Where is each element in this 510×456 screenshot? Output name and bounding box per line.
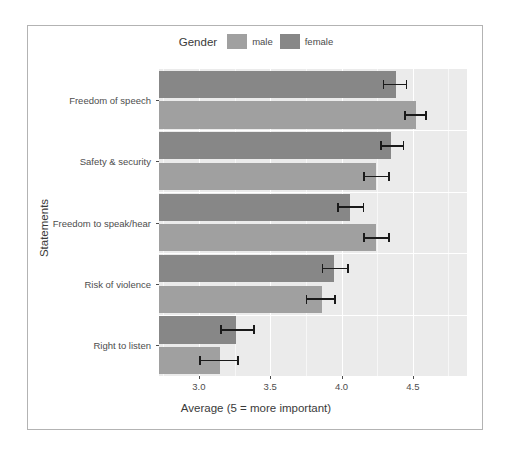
chart-figure: Gender male female Freedom of speechSafe… [27, 25, 483, 430]
error-bar-cap [388, 172, 390, 181]
x-tick-mark [199, 376, 200, 379]
legend-label-female: female [305, 36, 334, 47]
error-bar-cap [363, 203, 365, 212]
grid-line-horizontal [159, 130, 467, 131]
x-tick-label: 4.5 [406, 381, 419, 392]
legend-key-male[interactable]: male [227, 34, 273, 49]
bar-female[interactable] [159, 255, 334, 282]
grid-line-minor [448, 69, 449, 376]
y-axis-title: Statements [38, 128, 50, 328]
y-tick-mark [156, 284, 159, 285]
error-bar-line [337, 206, 364, 208]
legend-swatch-female [280, 34, 300, 49]
error-bar-line [380, 145, 404, 147]
legend-label-male: male [252, 36, 273, 47]
x-tick-mark [342, 376, 343, 379]
error-bar-cap [383, 80, 385, 89]
error-bar-line [306, 298, 336, 300]
error-bar-cap [199, 356, 201, 365]
y-tick-label: Freedom to speak/hear [53, 217, 151, 228]
grid-line-horizontal [159, 253, 467, 254]
error-bar-cap [253, 325, 255, 334]
error-bar-cap [388, 233, 390, 242]
legend-title: Gender [179, 36, 217, 48]
error-bar-cap [363, 172, 365, 181]
error-bar-cap [403, 141, 405, 150]
error-bar-cap [363, 233, 365, 242]
bar-female[interactable] [159, 194, 350, 221]
error-bar-cap [404, 111, 406, 120]
error-bar-line [363, 237, 390, 239]
x-axis-title: Average (5 = more important) [28, 402, 484, 414]
bar-female[interactable] [159, 71, 396, 98]
x-tick-label: 3.0 [192, 381, 205, 392]
error-bar-cap [220, 325, 222, 334]
bar-male[interactable] [159, 286, 322, 313]
x-tick-label: 3.5 [264, 381, 277, 392]
error-bar-cap [425, 111, 427, 120]
y-tick-mark [156, 100, 159, 101]
error-bar-line [404, 114, 427, 116]
legend-key-female[interactable]: female [280, 34, 334, 49]
x-tick-mark [413, 376, 414, 379]
plot-panel [159, 69, 467, 376]
error-bar-line [363, 176, 390, 178]
error-bar-cap [334, 295, 336, 304]
error-bar-line [220, 329, 254, 331]
bar-male[interactable] [159, 101, 416, 128]
y-tick-label: Freedom of speech [69, 94, 151, 105]
bar-male[interactable] [159, 224, 376, 251]
error-bar-cap [347, 264, 349, 273]
grid-line-horizontal [159, 315, 467, 316]
bar-male[interactable] [159, 163, 376, 190]
y-tick-mark [156, 345, 159, 346]
error-bar-line [383, 84, 407, 86]
chart-legend: Gender male female [28, 34, 484, 49]
y-tick-mark [156, 223, 159, 224]
error-bar-cap [337, 203, 339, 212]
x-tick-label: 4.0 [335, 381, 348, 392]
bar-female[interactable] [159, 132, 391, 159]
error-bar-cap [306, 295, 308, 304]
y-tick-mark [156, 161, 159, 162]
y-tick-label: Risk of violence [84, 278, 151, 289]
error-bar-cap [380, 141, 382, 150]
error-bar-cap [406, 80, 408, 89]
error-bar-line [199, 360, 239, 362]
legend-swatch-male [227, 34, 247, 49]
error-bar-cap [237, 356, 239, 365]
x-tick-mark [270, 376, 271, 379]
y-tick-label: Right to listen [93, 340, 151, 351]
error-bar-cap [322, 264, 324, 273]
error-bar-line [322, 268, 349, 270]
grid-line-horizontal [159, 192, 467, 193]
y-tick-label: Safety & security [80, 156, 151, 167]
